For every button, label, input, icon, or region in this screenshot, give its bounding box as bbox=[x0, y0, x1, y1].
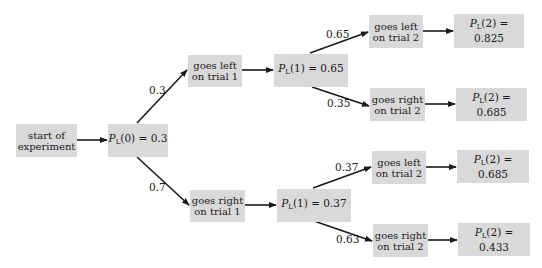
prob-value: = 0.3 bbox=[135, 132, 167, 144]
prob-var: P bbox=[475, 226, 482, 238]
prob-value: = 0.65 bbox=[305, 62, 344, 74]
node-text: on trial 2 bbox=[372, 105, 424, 116]
node-text: goes left bbox=[376, 157, 422, 168]
node-pl0: PL(0) = 0.3 bbox=[108, 124, 168, 157]
prob-var: P bbox=[474, 153, 481, 165]
node-text: goes left bbox=[373, 21, 419, 32]
prob-arg: (2) bbox=[486, 226, 501, 238]
node-pl2-right-right: PL(2) = 0.433 bbox=[458, 223, 530, 256]
prob-arg: (1) bbox=[290, 62, 305, 74]
node-text: on trial 2 bbox=[373, 32, 419, 43]
node-text: experiment bbox=[18, 141, 76, 152]
node-text: start of bbox=[18, 130, 76, 141]
node-text: goes right bbox=[192, 195, 244, 206]
node-text: goes left bbox=[192, 60, 238, 71]
node-text: on trial 1 bbox=[192, 206, 244, 217]
node-goes-right-trial-2-a: goes righton trial 2 bbox=[370, 88, 425, 121]
node-text: on trial 1 bbox=[192, 71, 238, 82]
node-start-of-experiment: start ofexperiment bbox=[16, 124, 77, 157]
node-text: goes right bbox=[372, 94, 424, 105]
prob-value: = 0.37 bbox=[308, 197, 347, 209]
probability-tree-diagram: start ofexperiment PL(0) = 0.3 goes left… bbox=[0, 0, 542, 268]
node-goes-left-trial-1: goes lefton trial 1 bbox=[188, 55, 242, 87]
prob-var: P bbox=[470, 17, 477, 29]
branch-label-0-65: 0.65 bbox=[326, 28, 349, 40]
node-goes-right-trial-1: goes righton trial 1 bbox=[190, 190, 245, 222]
node-pl2-left-right: PL(2) = 0.685 bbox=[456, 88, 527, 121]
node-pl1-after-left: PL(1) = 0.65 bbox=[274, 54, 348, 87]
prob-var: P bbox=[109, 132, 116, 144]
branch-label-0-37: 0.37 bbox=[335, 161, 358, 173]
branch-label-0-3: 0.3 bbox=[149, 84, 166, 96]
node-pl2-left-left: PL(2) = 0.825 bbox=[454, 14, 524, 48]
node-text: goes right bbox=[375, 230, 427, 241]
prob-arg: (2) bbox=[485, 153, 500, 165]
branch-label-0-35: 0.35 bbox=[327, 97, 350, 109]
prob-arg: (1) bbox=[293, 197, 308, 209]
branch-label-0-7: 0.7 bbox=[149, 181, 166, 193]
node-text: on trial 2 bbox=[375, 241, 427, 252]
node-goes-left-trial-2-a: goes lefton trial 2 bbox=[369, 15, 423, 48]
node-goes-right-trial-2-b: goes righton trial 2 bbox=[373, 224, 428, 257]
branch-label-0-63: 0.63 bbox=[336, 233, 359, 245]
node-pl2-right-left: PL(2) = 0.685 bbox=[457, 150, 529, 183]
prob-arg: (2) bbox=[484, 91, 499, 103]
node-text: on trial 2 bbox=[376, 168, 422, 179]
prob-arg: (2) bbox=[481, 17, 496, 29]
prob-arg: (0) bbox=[120, 132, 135, 144]
node-pl1-after-right: PL(1) = 0.37 bbox=[277, 189, 351, 222]
node-goes-left-trial-2-b: goes lefton trial 2 bbox=[372, 151, 426, 184]
